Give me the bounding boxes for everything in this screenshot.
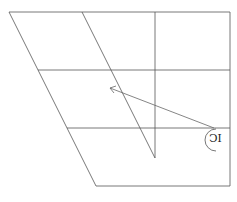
left-slanted-edge bbox=[9, 12, 96, 186]
grid-diagram bbox=[0, 0, 237, 202]
ic-label: IC bbox=[209, 132, 222, 145]
diagram-canvas: IC bbox=[0, 0, 237, 202]
arrow bbox=[110, 86, 214, 128]
inner-slanted-line bbox=[82, 12, 155, 158]
